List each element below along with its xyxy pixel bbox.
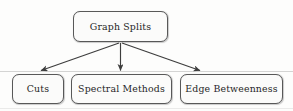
scan-artifact-line [0, 71, 293, 72]
node-spectral-methods[interactable]: Spectral Methods [71, 74, 172, 104]
node-edge-betweenness[interactable]: Edge Betweenness [180, 74, 283, 104]
edge-root-to-cuts [41, 43, 119, 71]
node-edge-betweenness-label: Edge Betweenness [185, 84, 277, 93]
edge-root-to-edge-betweenness [122, 43, 200, 71]
graph-splits-diagram: Graph Splits Cuts Spectral Methods Edge … [0, 0, 293, 111]
node-graph-splits[interactable]: Graph Splits [73, 11, 168, 42]
node-graph-splits-label: Graph Splits [90, 22, 151, 31]
node-cuts-label: Cuts [27, 84, 49, 93]
scan-artifact-line-lower [0, 108, 293, 109]
node-cuts[interactable]: Cuts [12, 74, 64, 104]
node-spectral-methods-label: Spectral Methods [78, 84, 165, 93]
